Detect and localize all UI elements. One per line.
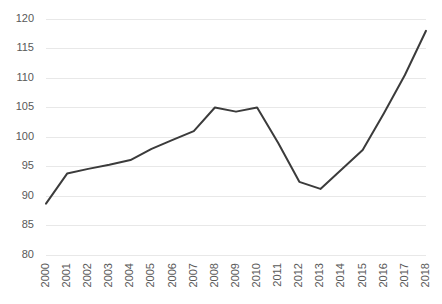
- y-tick-label: 80: [22, 248, 34, 260]
- x-tick-label: 2003: [102, 263, 114, 287]
- line-chart: 80859095100105110115120 2000200120022003…: [0, 0, 442, 304]
- y-tick-label: 115: [16, 41, 34, 53]
- x-tick-label: 2004: [123, 263, 135, 287]
- data-series-line: [46, 31, 426, 204]
- x-tick-label: 2012: [292, 263, 304, 287]
- x-tick-label: 2005: [144, 263, 156, 287]
- plot-area: 80859095100105110115120 2000200120022003…: [0, 0, 442, 304]
- x-tick-label: 2011: [271, 263, 283, 287]
- x-tick-label: 2009: [229, 263, 241, 287]
- x-axis-tick-labels: 2000200120022003200420052006200720082009…: [39, 263, 431, 287]
- x-tick-label: 2001: [60, 263, 72, 287]
- x-tick-label: 2014: [334, 263, 346, 287]
- x-tick-label: 2016: [377, 263, 389, 287]
- x-tick-label: 2006: [166, 263, 178, 287]
- y-tick-label: 95: [22, 159, 34, 171]
- x-tick-label: 2000: [39, 263, 51, 287]
- x-tick-label: 2010: [250, 263, 262, 287]
- y-tick-label: 85: [22, 218, 34, 230]
- y-tick-label: 105: [16, 100, 34, 112]
- y-tick-label: 110: [16, 71, 34, 83]
- x-tick-label: 2015: [356, 263, 368, 287]
- x-tick-label: 2018: [419, 263, 431, 287]
- x-tick-label: 2017: [398, 263, 410, 287]
- gridlines-group: [46, 19, 426, 255]
- x-tick-label: 2008: [208, 263, 220, 287]
- y-tick-label: 90: [22, 189, 34, 201]
- x-tick-label: 2007: [187, 263, 199, 287]
- y-tick-label: 120: [16, 12, 34, 24]
- chart-canvas: 80859095100105110115120 2000200120022003…: [0, 0, 442, 304]
- y-axis-tick-labels: 80859095100105110115120: [16, 12, 34, 260]
- x-tick-label: 2013: [313, 263, 325, 287]
- y-tick-label: 100: [16, 130, 34, 142]
- x-tick-label: 2002: [81, 263, 93, 287]
